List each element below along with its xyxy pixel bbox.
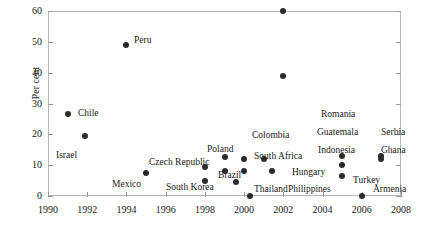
x-tick-label-2008: 2008 [381,205,421,215]
data-point [359,193,365,199]
y-tick-mark-60 [48,11,53,12]
y-tick-label-30: 30 [16,99,42,109]
x-tick-label-1992: 1992 [67,205,107,215]
y-tick-mark-right-40 [396,73,401,74]
x-tick-mark-2000 [244,192,245,197]
y-tick-mark-right-10 [396,165,401,166]
x-tick-label-1990: 1990 [28,205,68,215]
scatter-chart-figure: Per cent 0102030405060 19901992199419961… [0,0,427,235]
y-tick-mark-right-50 [396,42,401,43]
x-tick-mark-1990 [48,192,49,197]
x-tick-mark-1996 [166,192,167,197]
y-tick-mark-10 [48,165,53,166]
x-tick-label-1998: 1998 [185,205,225,215]
data-point [269,168,275,174]
x-tick-mark-1998 [205,192,206,197]
x-tick-mark-1992 [87,192,88,197]
point-label-peru: Peru [134,35,151,45]
y-tick-mark-50 [48,42,53,43]
x-tick-label-1996: 1996 [146,205,186,215]
point-label-mexico: Mexico [112,179,141,189]
data-point [65,111,71,117]
point-label-serbia: Serbia [381,127,405,137]
point-label-brazil: Brazil [218,170,241,180]
point-label-thailand: Thailand [254,184,288,194]
y-tick-label-0: 0 [16,191,42,201]
point-label-guatemala: Guatemala [317,127,358,137]
y-tick-label-40: 40 [16,68,42,78]
y-tick-mark-40 [48,73,53,74]
point-label-hungary: Hungary [292,167,325,177]
y-tick-label-60: 60 [16,6,42,16]
y-tick-label-20: 20 [16,129,42,139]
x-tick-label-1994: 1994 [106,205,146,215]
data-point [143,170,149,176]
x-tick-label-2002: 2002 [263,205,303,215]
point-label-israel: Israel [56,150,77,160]
point-label-chile: Chile [78,108,99,118]
point-label-armenia: Armenia [373,184,406,194]
x-tick-label-2000: 2000 [224,205,264,215]
point-label-romania: Romania [321,109,355,119]
x-tick-mark-1994 [126,192,127,197]
y-tick-mark-20 [48,134,53,135]
x-tick-label-2006: 2006 [342,205,382,215]
y-tick-label-50: 50 [16,37,42,47]
point-label-philippines: Philippines [288,184,331,194]
point-label-indonesia: Indonesia [318,145,355,155]
point-label-poland: Poland [207,144,233,154]
x-tick-label-2004: 2004 [303,205,343,215]
point-label-south-korea: South Korea [166,182,214,192]
point-label-czech-republic: Czech Republic [149,157,209,167]
point-label-ghana: Ghana [381,145,406,155]
y-tick-label-10: 10 [16,160,42,170]
y-tick-mark-right-60 [396,11,401,12]
y-tick-mark-30 [48,104,53,105]
y-tick-mark-right-30 [396,104,401,105]
point-label-south-africa: South Africa [254,151,302,161]
data-point [247,193,253,199]
y-axis-label: Per cent [31,43,41,123]
point-label-colombia: Colombia [252,130,289,140]
